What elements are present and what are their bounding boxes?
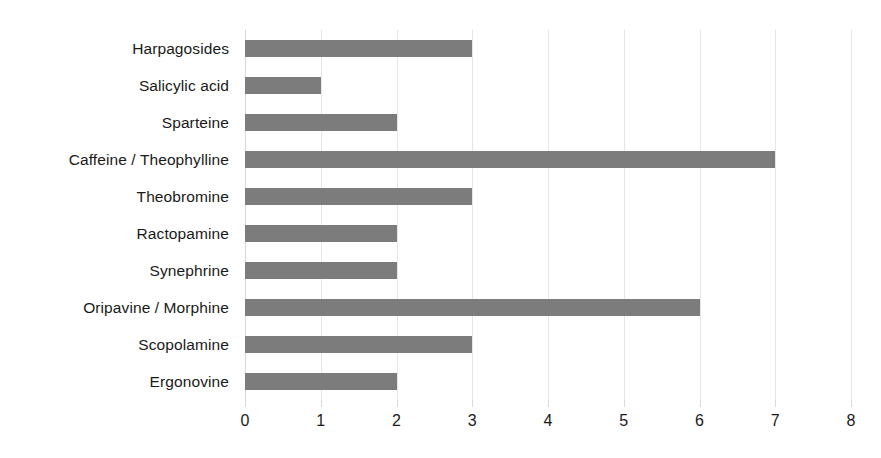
bar-row — [245, 289, 851, 326]
bar — [245, 262, 397, 279]
bar-row — [245, 67, 851, 104]
category-label: Caffeine / Theophylline — [0, 141, 238, 178]
category-label: Harpagosides — [0, 30, 238, 67]
x-tick-label: 0 — [241, 412, 250, 430]
x-tick-mark — [624, 400, 625, 407]
x-tick-mark — [321, 400, 322, 407]
bar-row — [245, 178, 851, 215]
bar — [245, 77, 321, 94]
bar — [245, 114, 397, 131]
x-tick-label: 5 — [619, 412, 628, 430]
x-tick-mark — [397, 400, 398, 407]
x-tick-mark — [851, 400, 852, 407]
bar-row — [245, 30, 851, 67]
x-tick-mark — [700, 400, 701, 407]
x-tick-mark — [245, 400, 246, 407]
x-tick-label: 1 — [316, 412, 325, 430]
bar — [245, 336, 472, 353]
category-label: Oripavine / Morphine — [0, 289, 238, 326]
bar — [245, 299, 700, 316]
bar-row — [245, 363, 851, 400]
x-tick-label: 3 — [468, 412, 477, 430]
category-label: Sparteine — [0, 104, 238, 141]
category-label: Ractopamine — [0, 215, 238, 252]
bar — [245, 151, 775, 168]
bar-row — [245, 141, 851, 178]
x-axis-tick-labels: 012345678 — [245, 412, 851, 438]
x-tick-label: 7 — [771, 412, 780, 430]
category-axis-labels: HarpagosidesSalicylic acidSparteineCaffe… — [0, 30, 238, 400]
bar-row — [245, 252, 851, 289]
gridline — [851, 30, 852, 400]
x-tick-mark — [775, 400, 776, 407]
x-tick-label: 8 — [847, 412, 856, 430]
category-label: Salicylic acid — [0, 67, 238, 104]
category-label: Theobromine — [0, 178, 238, 215]
x-tick-label: 4 — [544, 412, 553, 430]
category-label: Synephrine — [0, 252, 238, 289]
x-axis-tick-marks — [245, 400, 851, 410]
bar — [245, 225, 397, 242]
bar — [245, 40, 472, 57]
bar-row — [245, 326, 851, 363]
bar — [245, 373, 397, 390]
category-label: Ergonovine — [0, 363, 238, 400]
bar-chart: HarpagosidesSalicylic acidSparteineCaffe… — [0, 0, 881, 458]
bar — [245, 188, 472, 205]
x-tick-label: 6 — [695, 412, 704, 430]
category-label: Scopolamine — [0, 326, 238, 363]
bar-series — [245, 30, 851, 400]
bar-row — [245, 104, 851, 141]
x-tick-mark — [548, 400, 549, 407]
page-bleed-text — [0, 448, 881, 458]
x-tick-label: 2 — [392, 412, 401, 430]
x-tick-mark — [472, 400, 473, 407]
bar-row — [245, 215, 851, 252]
plot-area — [245, 30, 851, 400]
